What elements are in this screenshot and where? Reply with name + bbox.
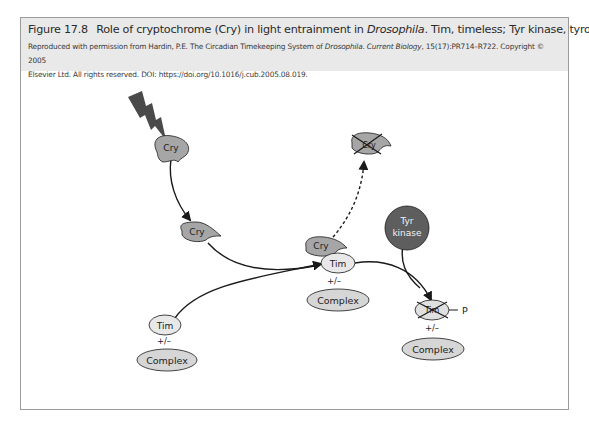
tim-bound-label: Tim: [329, 259, 347, 269]
arrow-cry-degradation-dotted: [333, 162, 364, 237]
cry-activated-node: Cry: [181, 222, 221, 242]
entrainment-diagram: Cry Cry Cry Cry Tim +/– Complex Tim +/– …: [0, 0, 589, 421]
cry-bound-label: Cry: [313, 241, 329, 251]
pm-right-label: +/–: [425, 323, 439, 333]
cry-initial-node: Cry: [155, 136, 189, 162]
tim-free-label: Tim: [156, 321, 174, 331]
cry-activated-label: Cry: [189, 227, 205, 237]
pm-middle-label: +/–: [327, 276, 341, 286]
cry-degraded-node: Cry: [352, 133, 391, 154]
tyr-kinase-label-line1: Tyr: [399, 216, 413, 226]
complex-middle-label: Complex: [317, 295, 359, 306]
tyr-kinase-node: Tyr kinase: [385, 206, 429, 250]
complex-right-label: Complex: [412, 344, 454, 355]
tim-bound-node: Tim: [321, 253, 355, 273]
light-bolt-icon: [128, 91, 166, 140]
arrow-tim-to-degraded: [355, 262, 431, 300]
complex-left-node: Complex: [137, 349, 197, 371]
phospho-label: P: [462, 305, 468, 316]
tyr-kinase-label-line2: kinase: [392, 228, 422, 238]
complex-right-node: Complex: [402, 338, 464, 360]
tim-degraded-node: Tim P: [415, 300, 468, 320]
arrow-cry-activated-to-tim: [208, 243, 320, 270]
pm-left-label: +/–: [157, 336, 171, 346]
complex-left-label: Complex: [146, 355, 188, 366]
complex-middle-node: Complex: [307, 289, 369, 311]
arrow-cry-to-activated: [170, 159, 190, 220]
cry-initial-label: Cry: [163, 143, 179, 153]
tim-free-node: Tim: [149, 315, 181, 335]
arrow-tim-free-to-tim-bound: [175, 264, 321, 318]
